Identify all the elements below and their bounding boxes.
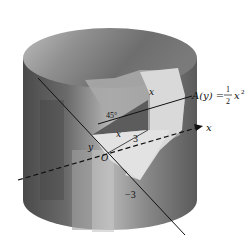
triangle-height-label: x bbox=[149, 87, 154, 97]
cylinder-wedge-diagram: x 45° x 3 y O −3 x A(y) = 1 2 x 2 bbox=[0, 0, 251, 246]
side-band bbox=[40, 100, 64, 200]
formula-exp: 2 bbox=[241, 88, 245, 96]
neg-three-label: −3 bbox=[125, 189, 136, 200]
triangle-base-label: x bbox=[116, 129, 121, 139]
side-band bbox=[72, 150, 92, 230]
radius-label: 3 bbox=[133, 133, 138, 144]
formula-frac-num: 1 bbox=[226, 85, 230, 94]
y-axis-label: y bbox=[87, 142, 94, 152]
formula-rhs: x bbox=[234, 90, 240, 101]
origin-label: O bbox=[101, 153, 109, 163]
angle-label: 45° bbox=[106, 111, 117, 120]
formula-frac-den: 2 bbox=[226, 97, 230, 106]
x-axis-label: x bbox=[206, 122, 212, 133]
formula-lhs: A(y) = bbox=[191, 90, 224, 101]
